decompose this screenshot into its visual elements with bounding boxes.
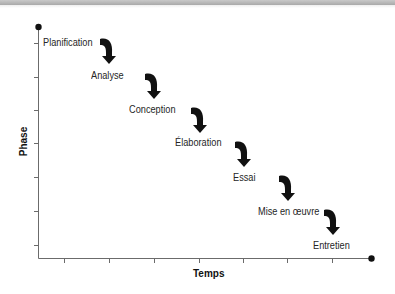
y-axis [34,24,42,259]
arrow-down-icon [145,74,161,99]
phase-label-conception: Conception [129,104,176,116]
y-axis-title: Phase [18,127,29,157]
arrow-down-icon [100,39,116,64]
x-axis-ticks [65,259,333,264]
phase-label-analyse: Analyse [91,70,124,82]
arrow-down-icon [235,142,251,167]
phase-label-planification: Planification [43,37,93,49]
phase-label-entretien: Entretien [313,240,350,252]
y-axis-origin-dot [35,24,41,30]
phase-label-essai: Essai [233,172,255,184]
y-axis-ticks [34,44,39,246]
phase-label-elaboration: Élaboration [175,137,222,149]
x-axis-title: Temps [193,268,225,279]
arrow-down-icon [279,176,295,201]
arrow-down-icon [324,210,340,235]
arrow-down-icon [191,108,207,133]
phase-label-mise-en-oeuvre: Mise en œuvre [258,206,319,218]
x-axis-end-dot [368,255,374,261]
x-axis [39,255,375,263]
